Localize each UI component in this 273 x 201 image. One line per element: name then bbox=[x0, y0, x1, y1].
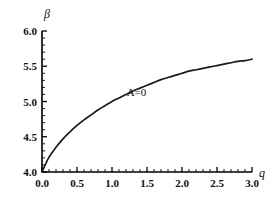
x-tick-label: 1.0 bbox=[105, 177, 119, 189]
x-axis-title: q bbox=[259, 166, 265, 180]
data-series-curve bbox=[42, 59, 252, 172]
chart-figure: 0.00.51.01.52.02.53.0 4.04.55.05.56.0 β … bbox=[0, 0, 273, 201]
y-tick-labels: 4.04.55.05.56.0 bbox=[23, 25, 37, 178]
series-label-annotation: A=0 bbox=[127, 86, 147, 98]
y-tick-label: 6.0 bbox=[23, 25, 37, 37]
y-tick-label: 4.5 bbox=[23, 131, 37, 143]
y-tick-label: 5.0 bbox=[23, 96, 37, 108]
x-tick-label: 2.5 bbox=[210, 177, 224, 189]
y-axis-title: β bbox=[43, 7, 50, 21]
x-tick-labels: 0.00.51.01.52.02.53.0 bbox=[35, 177, 259, 189]
x-tick-label: 1.5 bbox=[140, 177, 154, 189]
y-tick-label: 4.0 bbox=[23, 166, 37, 178]
x-tick-label: 3.0 bbox=[245, 177, 259, 189]
x-tick-label: 0.0 bbox=[35, 177, 49, 189]
x-tick-label: 0.5 bbox=[70, 177, 84, 189]
series-annotations: A=0 bbox=[127, 86, 147, 98]
plot-canvas: 0.00.51.01.52.02.53.0 4.04.55.05.56.0 β … bbox=[0, 0, 273, 201]
y-tick-label: 5.5 bbox=[23, 60, 37, 72]
x-tick-label: 2.0 bbox=[175, 177, 189, 189]
